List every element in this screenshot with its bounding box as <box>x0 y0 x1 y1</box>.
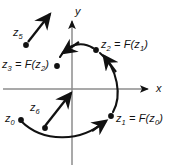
arc-arrow-to-z2 <box>104 56 116 72</box>
point-z2 <box>93 47 99 53</box>
figure-canvas <box>0 0 175 165</box>
point-z5 <box>23 42 29 48</box>
arc-segment-lower-left <box>21 121 104 137</box>
z6-vector <box>45 93 71 126</box>
y-axis-label: y <box>75 5 81 17</box>
label-z2-rest: = F( <box>111 38 134 50</box>
label-z2: z2 = F(z1) <box>101 38 148 53</box>
arc-direction-arrows <box>63 42 116 131</box>
label-z3-close: ) <box>45 58 49 70</box>
label-z6-sub: 6 <box>36 107 40 116</box>
label-z5-sub: 5 <box>19 32 23 41</box>
point-z6 <box>42 125 48 131</box>
label-z1-rest: = F( <box>126 112 149 124</box>
x-axis-label: x <box>156 82 162 94</box>
label-z3-rest: = F( <box>12 58 35 70</box>
label-z0: z0 <box>5 112 15 127</box>
point-z1 <box>108 113 114 119</box>
label-z2-close: ) <box>144 38 148 50</box>
label-z1-close: ) <box>159 112 163 124</box>
orbit-points <box>18 42 114 131</box>
arc-arrow-to-z1 <box>92 121 106 131</box>
label-z5: z5 <box>13 26 23 41</box>
point-z3 <box>54 63 60 69</box>
z6-arrow-icon <box>45 93 71 126</box>
z5-arrow-icon <box>28 14 50 42</box>
label-z3: z3 = F(z2) <box>2 58 49 73</box>
complex-plane-figure: y x z5 z3 = F(z2) z2 = F(z1) z1 = F(z0) … <box>0 0 175 165</box>
arc-arrow-to-z3 <box>63 42 79 53</box>
z5-vector <box>28 14 50 42</box>
label-z0-sub: 0 <box>11 118 15 127</box>
label-z6: z6 <box>30 101 40 116</box>
label-z1: z1 = F(z0) <box>116 112 163 127</box>
point-z0 <box>18 117 24 123</box>
